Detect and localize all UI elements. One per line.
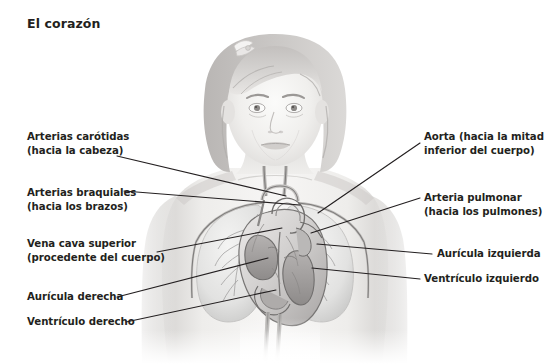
label-aorta: Aorta (hacia la mitad inferior del cuerp… xyxy=(424,130,544,158)
label-arterias-braquiales-line1: Arterias braquiales xyxy=(27,187,136,198)
label-vena-cava-superior-line1: Vena cava superior xyxy=(27,238,136,249)
label-arterias-carotidas-line1: Arterias carótidas xyxy=(27,131,129,142)
label-arterias-braquiales: Arterias braquiales (hacia los brazos) xyxy=(27,186,136,214)
label-arterias-carotidas: Arterias carótidas (hacia la cabeza) xyxy=(27,130,129,158)
label-ventriculo-derecho: Ventrículo derecho xyxy=(27,315,135,329)
child-anatomy-illustration xyxy=(0,0,550,364)
child-head xyxy=(204,34,347,172)
label-auricula-izquierda-line1: Aurícula izquierda xyxy=(437,248,541,259)
label-arteria-pulmonar-line1: Arteria pulmonar xyxy=(424,192,522,203)
label-auricula-derecha: Aurícula derecha xyxy=(27,290,123,304)
label-ventriculo-izquierdo-line1: Ventrículo izquierdo xyxy=(424,273,539,284)
label-auricula-izquierda: Aurícula izquierda xyxy=(437,247,541,261)
label-auricula-derecha-line1: Aurícula derecha xyxy=(27,291,123,302)
label-vena-cava-superior: Vena cava superior (procedente del cuerp… xyxy=(27,237,165,265)
label-ventriculo-derecho-line1: Ventrículo derecho xyxy=(27,316,135,327)
label-vena-cava-superior-line2: (procedente del cuerpo) xyxy=(27,251,165,265)
label-arterias-braquiales-line2: (hacia los brazos) xyxy=(27,200,136,214)
label-aorta-line2: inferior del cuerpo) xyxy=(424,144,544,158)
heart-diagram-page: El corazón xyxy=(0,0,550,364)
label-ventriculo-izquierdo: Ventrículo izquierdo xyxy=(424,272,539,286)
label-arteria-pulmonar: Arteria pulmonar (hacia los pulmones) xyxy=(424,191,542,219)
label-arteria-pulmonar-line2: (hacia los pulmones) xyxy=(424,205,542,219)
label-arterias-carotidas-line2: (hacia la cabeza) xyxy=(27,144,129,158)
label-aorta-line1: Aorta (hacia la mitad xyxy=(424,131,544,142)
